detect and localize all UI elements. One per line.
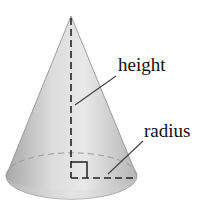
- height-label: height: [118, 54, 166, 75]
- cone-diagram: height radius: [0, 0, 201, 205]
- radius-label: radius: [144, 120, 190, 141]
